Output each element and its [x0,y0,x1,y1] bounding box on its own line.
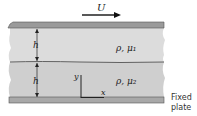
fixed-plate-label-line1: Fixed [171,93,192,103]
fluid-upper-properties: ρ, μ₁ [116,43,136,53]
velocity-label: U [97,3,105,13]
thickness-label-lower: h [33,76,39,86]
diagram-graphics [0,0,197,116]
fixed-plate-label-line2: plate [171,103,191,113]
velocity-arrow-head [114,12,121,18]
x-axis-label: x [101,88,106,98]
thickness-label-upper: h [33,40,39,50]
fluid-lower-properties: ρ, μ₂ [116,76,136,86]
y-axis-label: y [74,72,79,82]
two-layer-couette-diagram: U h h ρ, μ₁ ρ, μ₂ y x Fixed plate [0,0,197,116]
moving-plate [8,22,164,28]
